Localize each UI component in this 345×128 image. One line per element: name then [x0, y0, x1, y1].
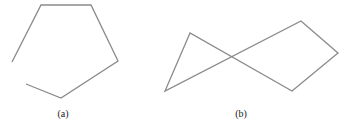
- diagram-canvas: [0, 0, 345, 128]
- figure-label-a: (a): [57, 108, 68, 119]
- open-polygon-a: [12, 5, 118, 98]
- figure-label-b: (b): [235, 108, 247, 119]
- self-intersecting-polygon-b: [165, 21, 338, 91]
